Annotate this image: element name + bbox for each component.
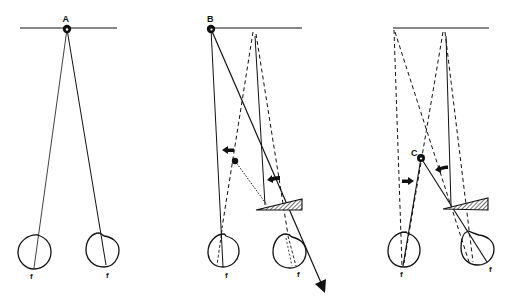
arrow-curve-icon — [435, 165, 448, 173]
label-a: A — [63, 14, 70, 24]
right-visual-axis — [67, 29, 106, 265]
arrow-left-icon — [222, 146, 234, 154]
fovea-label-left: f — [225, 271, 228, 280]
fovea-label-right: f — [106, 271, 109, 280]
fovea-label-left: f — [30, 272, 33, 281]
left-visual-axis — [403, 158, 421, 266]
right-eye — [273, 234, 306, 268]
panel-a: A f f — [18, 14, 119, 281]
arrow-right-icon — [402, 177, 414, 185]
right-eye — [86, 233, 119, 267]
image-point — [232, 158, 238, 164]
dashed-line-left-cross — [395, 32, 470, 265]
dotted-projection — [235, 161, 267, 205]
label-b: B — [207, 14, 214, 24]
label-c: C — [411, 148, 418, 158]
diagram: A f f B f f — [0, 0, 512, 303]
left-eye — [208, 234, 239, 267]
fixation-point-b-center — [210, 28, 212, 30]
dashed-line-left-outer — [394, 30, 402, 266]
dashed-line-right-eye — [288, 236, 296, 266]
fovea-label-right: f — [489, 265, 492, 274]
dashed-line-left — [222, 32, 253, 228]
right-eye-inner-dashed — [286, 238, 292, 266]
panel-b: B f f — [207, 14, 326, 293]
left-visual-axis — [211, 29, 223, 267]
left-visual-axis — [34, 29, 67, 268]
fixation-point-c-center — [420, 157, 422, 159]
fixation-point-a-center — [66, 28, 68, 30]
arrow-curve-icon — [267, 175, 280, 183]
fovea-label-left: f — [400, 270, 403, 279]
prism — [256, 199, 302, 210]
fovea-label-right: f — [297, 270, 300, 279]
right-solid-axis — [255, 36, 265, 205]
dashed-line-right-cross — [404, 32, 443, 263]
panel-c: C f f — [388, 28, 494, 279]
